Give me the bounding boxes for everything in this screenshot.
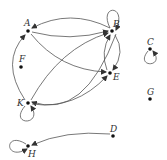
node-dot [111, 134, 115, 138]
node-a: A [23, 18, 31, 33]
edge-k-to-k [20, 106, 34, 121]
edge-b-to-a [32, 18, 110, 28]
edge-c-to-c [144, 51, 156, 64]
node-dot [108, 71, 112, 75]
edge-a-to-b [32, 31, 108, 37]
edge-k-to-b [31, 33, 108, 100]
node-label: G [147, 87, 154, 97]
edge-k-to-a [13, 35, 26, 100]
node-dot [148, 97, 152, 101]
node-e: E [108, 71, 120, 82]
edge-h-to-h [10, 140, 27, 152]
node-f: F [18, 54, 26, 69]
node-c: C [147, 37, 154, 51]
node-dot [148, 47, 152, 51]
node-dot [19, 65, 23, 69]
edge-a-to-e [31, 34, 106, 72]
edge-e-to-b [104, 35, 110, 70]
edge-b-to-e [113, 35, 120, 70]
node-label: C [147, 37, 154, 47]
node-label: D [109, 124, 117, 134]
node-h: H [26, 144, 36, 159]
directed-graph: ABCEFGKDH [0, 0, 167, 160]
node-g: G [147, 87, 154, 101]
node-label: K [16, 98, 25, 108]
node-dot [26, 29, 30, 33]
node-b: B [110, 19, 120, 33]
edge-b-to-k [32, 34, 116, 105]
edge-d-to-h [32, 133, 110, 145]
node-label: F [18, 54, 26, 64]
node-dot [110, 29, 114, 33]
node-label: B [112, 19, 120, 29]
node-k: K [16, 98, 30, 108]
node-label: E [112, 72, 120, 82]
node-d: D [109, 124, 117, 138]
edges-layer [10, 10, 157, 152]
node-label: H [27, 149, 36, 159]
node-dot [26, 101, 30, 105]
node-dot [26, 144, 30, 148]
node-label: A [23, 18, 31, 28]
